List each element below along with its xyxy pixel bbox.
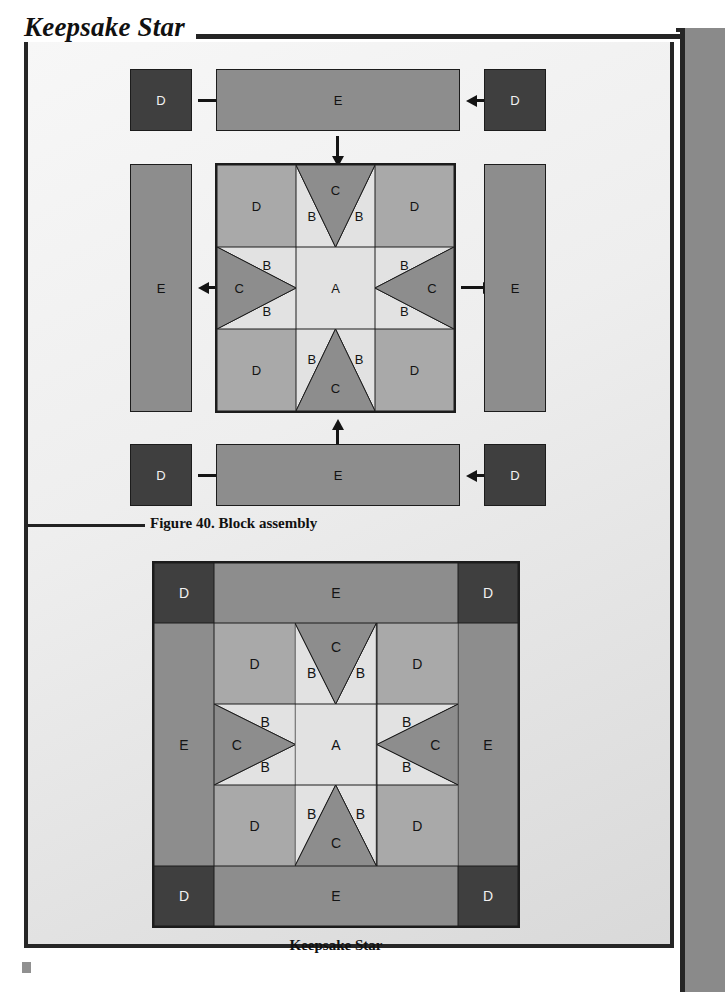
piece-label-d: D	[156, 93, 165, 108]
patch-d	[377, 623, 458, 704]
assembly-bottom-left-square: D	[130, 444, 192, 506]
assembly-right-strip: E	[484, 164, 546, 412]
finished-border-right-patch	[458, 623, 518, 866]
assembly-bottom-strip: E	[216, 444, 460, 506]
page-corner-mark	[22, 962, 31, 973]
piece-label-e: E	[157, 281, 166, 296]
finished-corner-tr-patch	[458, 563, 518, 623]
finished-border-left-patch	[154, 623, 214, 866]
assembly-top-strip: E	[216, 69, 460, 131]
star-block-assembly: DDDDCBBCBBCBBCBBA	[215, 163, 456, 413]
finished-corner-bl-patch	[154, 866, 214, 926]
star-geese-right	[377, 704, 458, 785]
star-center-a	[296, 247, 375, 329]
finished-border-left	[154, 623, 214, 866]
page-title: Keepsake Star	[24, 12, 185, 43]
star-corner-d	[217, 329, 296, 411]
finished-corner-tl	[154, 563, 214, 623]
patch-d	[375, 165, 454, 247]
star-corner-d	[214, 623, 295, 704]
assembly-top-left-square: D	[130, 69, 192, 131]
piece-label-e: E	[334, 468, 343, 483]
piece-label-e: E	[511, 281, 520, 296]
finished-block: DDDDEEEEDDDDCBBCBBCBBCBBA	[152, 561, 520, 928]
star-geese-bottom	[296, 329, 375, 411]
star-geese-left	[217, 247, 296, 329]
assembly-left-strip: E	[130, 164, 192, 412]
patch-a	[295, 704, 376, 785]
finished-corner-br-patch	[458, 866, 518, 926]
finished-border-top-patch	[214, 563, 458, 623]
star-corner-d	[217, 165, 296, 247]
finished-border-top	[214, 563, 458, 623]
star-geese-top	[295, 623, 376, 704]
patch-d	[217, 329, 296, 411]
assembly-top-right-square: D	[484, 69, 546, 131]
piece-label-d: D	[156, 468, 165, 483]
patch-d	[214, 785, 295, 866]
finished-corner-tl-patch	[154, 563, 214, 623]
finished-border-bottom-patch	[214, 866, 458, 926]
star-corner-d	[214, 785, 295, 866]
finished-border-right	[458, 623, 518, 866]
finished-corner-tr	[458, 563, 518, 623]
finished-block-caption: Keepsake Star	[152, 937, 520, 954]
title-rule	[196, 34, 680, 39]
finished-corner-br	[458, 866, 518, 926]
finished-corner-bl	[154, 866, 214, 926]
figure-caption-rule	[28, 524, 145, 527]
patch-a	[296, 247, 375, 329]
patch-d	[377, 785, 458, 866]
star-geese-bottom	[295, 785, 376, 866]
star-geese-left	[214, 704, 295, 785]
star-center-a	[295, 704, 376, 785]
patch-d	[375, 329, 454, 411]
finished-border-bottom	[214, 866, 458, 926]
piece-label-d: D	[510, 93, 519, 108]
patch-d	[217, 165, 296, 247]
star-block-finished: DDDDCBBCBBCBBCBBA	[214, 623, 458, 866]
page-side-bar	[680, 28, 725, 992]
patch-d	[214, 623, 295, 704]
star-corner-d	[377, 623, 458, 704]
star-geese-top	[296, 165, 375, 247]
star-corner-d	[375, 329, 454, 411]
star-corner-d	[377, 785, 458, 866]
piece-label-e: E	[334, 93, 343, 108]
star-corner-d	[375, 165, 454, 247]
star-geese-right	[375, 247, 454, 329]
piece-label-d: D	[510, 468, 519, 483]
assembly-bottom-right-square: D	[484, 444, 546, 506]
figure-caption: Figure 40. Block assembly	[150, 515, 317, 532]
